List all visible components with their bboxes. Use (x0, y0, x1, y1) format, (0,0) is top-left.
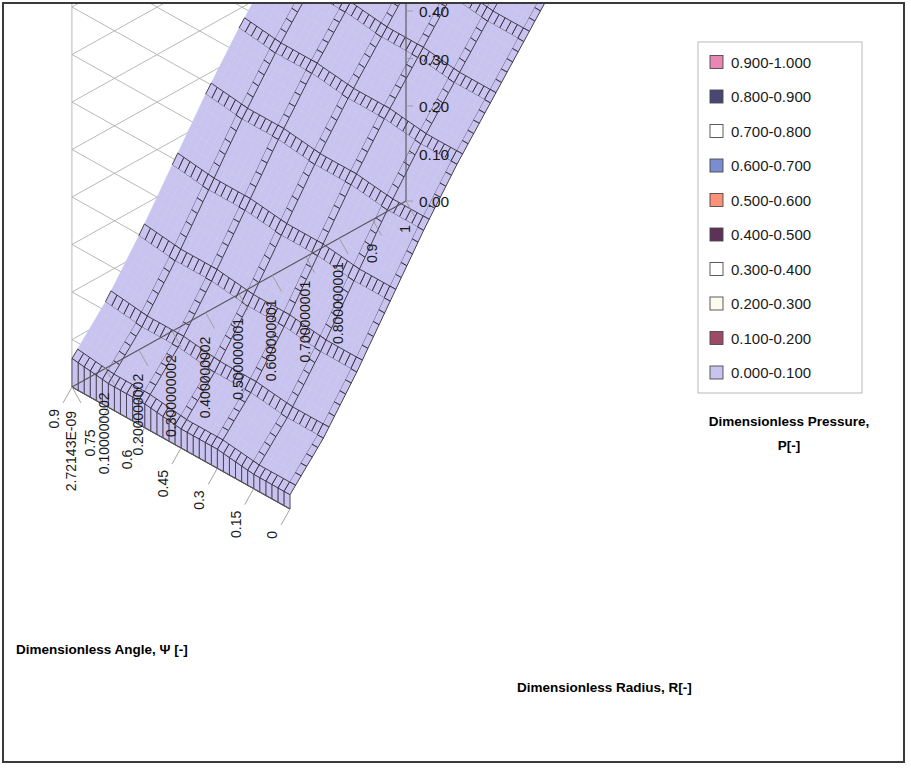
z-axis-title-line2: P[-] (778, 438, 801, 453)
y-tick-label: 0.600000001 (263, 299, 279, 381)
x-tick (63, 387, 72, 403)
x-tick-label: 0.9 (46, 409, 62, 429)
legend-label: 0.300-0.400 (731, 261, 811, 278)
y-tick-label: 1 (397, 225, 413, 233)
legend-swatch[interactable] (710, 297, 723, 310)
x-tick (172, 448, 181, 464)
legend-label: 0.700-0.800 (731, 123, 811, 140)
legend-label: 0.800-0.900 (731, 88, 811, 105)
y-tick-label: 2.72143E-09 (63, 411, 79, 491)
x-tick-label: 0.3 (191, 490, 207, 510)
z-axis-title-line1: Dimensionless Pressure, (709, 414, 870, 429)
x-tick (208, 468, 217, 484)
x-tick (245, 489, 254, 505)
surface-skirt-facet (120, 390, 126, 417)
legend-swatch[interactable] (710, 228, 723, 241)
y-tick-label: 0.700000001 (297, 281, 313, 363)
x-tick (281, 509, 290, 525)
legend: 0.900-1.0000.800-0.9000.700-0.8000.600-0… (698, 42, 862, 393)
legend-swatch[interactable] (710, 90, 723, 103)
legend-swatch[interactable] (710, 332, 723, 345)
y-axis-title: Dimensionless Radius, R[-] (517, 680, 692, 695)
surface-plot: 0.000.100.200.300.400.500.600.700.800.90… (4, 4, 903, 761)
x-axis-title: Dimensionless Angle, Ψ [-] (16, 642, 188, 657)
legend-label: 0.200-0.300 (731, 295, 811, 312)
z-tick-label: 0.20 (419, 98, 450, 115)
z-tick-label: 0.30 (419, 51, 450, 68)
x-tick-label: 0.15 (228, 510, 244, 537)
x-tick-label: 0 (264, 531, 280, 539)
legend-swatch[interactable] (710, 263, 723, 276)
legend-label: 0.500-0.600 (731, 192, 811, 209)
legend-label: 0.400-0.500 (731, 226, 811, 243)
y-tick-label: 0.300000002 (163, 355, 179, 437)
surface-skirt-facet (151, 408, 157, 434)
legend-swatch[interactable] (710, 125, 723, 138)
z-tick-label: 0.40 (419, 4, 450, 20)
surface-skirt-facet (84, 367, 90, 397)
legend-swatch[interactable] (710, 366, 723, 379)
legend-label: 0.000-0.100 (731, 364, 811, 381)
legend-label: 0.100-0.200 (731, 330, 811, 347)
legend-swatch[interactable] (710, 159, 723, 172)
y-tick-label: 0.9 (364, 243, 380, 263)
surface-skirt-facet (157, 412, 163, 438)
chart-frame: 0.000.100.200.300.400.500.600.700.800.90… (2, 2, 905, 763)
legend-swatch[interactable] (710, 56, 723, 69)
x-tick-label: 0.45 (155, 470, 171, 497)
legend-label: 0.900-1.000 (731, 54, 811, 71)
z-tick-label: 0.00 (419, 193, 450, 210)
legend-label: 0.600-0.700 (731, 157, 811, 174)
y-tick-label: 0.100000002 (96, 392, 112, 474)
y-tick-label: 0.400000002 (197, 336, 213, 418)
surface-skirt-facet (78, 363, 84, 394)
y-tick-label: 0.200000002 (130, 374, 146, 456)
z-tick-label: 0.10 (419, 146, 450, 163)
y-tick-label: 0.500000001 (230, 318, 246, 400)
legend-swatch[interactable] (710, 194, 723, 207)
y-tick-label: 0.800000001 (330, 262, 346, 344)
surface-skirt-facet (114, 387, 120, 414)
